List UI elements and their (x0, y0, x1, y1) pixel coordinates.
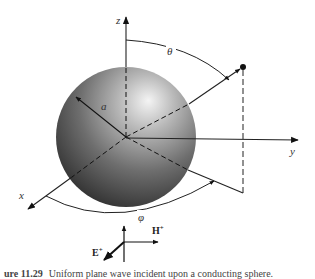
x-axis-label: x (18, 189, 24, 201)
caption-text: Uniform plane wave incident upon a condu… (49, 268, 273, 279)
figure-caption: ure 11.29Uniform plane wave incident upo… (4, 268, 273, 279)
y-axis-label: y (289, 145, 295, 157)
position-vector (189, 69, 240, 104)
e-field-label: E+ (92, 246, 103, 258)
z-axis-label: z (115, 14, 121, 26)
theta-label: θ (167, 45, 173, 57)
e-field-arrow (104, 242, 124, 260)
xy-projection (188, 170, 243, 193)
observation-point (240, 64, 246, 70)
incident-field-triad: H+ E+ (92, 224, 164, 262)
h-field-label: H+ (152, 224, 164, 236)
radius-label: a (101, 100, 107, 112)
figure-number: ure 11.29 (4, 268, 43, 279)
phi-label: φ (138, 211, 144, 223)
